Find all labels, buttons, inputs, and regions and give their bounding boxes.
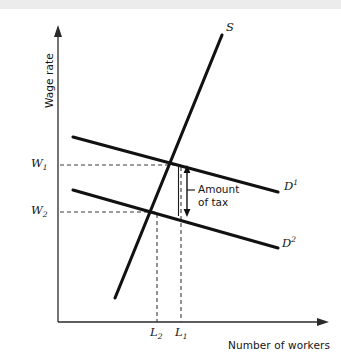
x-axis: [58, 318, 329, 326]
tick-label-l1-subscript: 1: [183, 332, 188, 341]
amount-of-tax-label: Amount of tax: [198, 183, 239, 208]
tick-label-w2-base: W: [31, 203, 43, 217]
curve-label-supply: S: [226, 22, 234, 34]
supply-curve-S: [115, 35, 222, 298]
tick-label-w2-subscript: 2: [43, 210, 48, 219]
x-axis-label: Number of workers: [228, 340, 330, 351]
curve-label-demand1: D1: [284, 181, 298, 193]
tick-label-l2-base: L: [150, 325, 158, 339]
tick-label-w1-subscript: 1: [43, 163, 48, 172]
tick-label-l1-base: L: [175, 325, 183, 339]
curve-label-demand2-superscript: 2: [291, 235, 296, 244]
tick-label-w2: W2: [31, 205, 48, 217]
curve-label-demand1-superscript: 1: [293, 178, 298, 187]
tick-label-w1: W1: [31, 158, 48, 170]
amount-of-tax-line1: Amount: [198, 183, 239, 196]
amount-of-tax-line2: of tax: [198, 196, 239, 209]
curve-group: [73, 35, 278, 298]
curve-label-demand1-base: D: [284, 179, 293, 193]
tick-label-l2: L2: [150, 327, 162, 339]
tick-label-w1-base: W: [31, 156, 43, 170]
figure-root: Wage rate Number of workers W1 W2 L2 L1 …: [0, 0, 341, 362]
tick-label-l2-subscript: 2: [158, 332, 163, 341]
tick-label-l1: L1: [175, 327, 187, 339]
y-axis-label: Wage rate: [44, 53, 55, 108]
demand-curve-D2: [73, 190, 278, 248]
curve-label-demand2: D2: [282, 238, 296, 250]
curve-label-demand2-base: D: [282, 236, 291, 250]
y-axis-arrowhead: [54, 25, 62, 37]
guide-lines: [60, 165, 181, 322]
tax-arrow-head-down: [184, 209, 191, 217]
x-axis-arrowhead: [317, 318, 329, 326]
y-axis: [54, 25, 62, 322]
